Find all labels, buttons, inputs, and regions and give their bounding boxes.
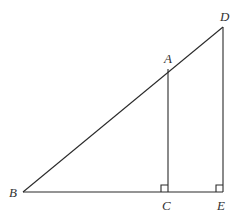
geometry-diagram: D A B C E [0,0,241,214]
segment-bd [23,27,223,192]
right-angle-marker-c [161,185,168,192]
label-b: B [9,185,17,200]
label-e: E [216,198,225,213]
label-d: D [219,9,230,24]
right-angle-marker-e [216,185,223,192]
label-a: A [163,51,172,66]
label-c: C [162,198,171,213]
